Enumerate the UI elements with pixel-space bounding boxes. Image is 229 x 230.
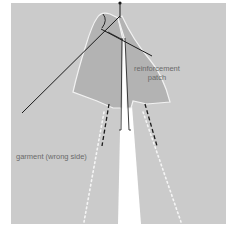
reinforcement-patch-label-line1: reinforcement [134,64,180,73]
garment-label: garment (wrong side) [16,152,87,161]
reinforcement-patch-label: reinforcement patch [134,64,180,82]
reinforcement-patch-label-line2: patch [134,73,180,82]
point-marker-dot [118,1,121,4]
sewing-diagram [0,0,229,230]
